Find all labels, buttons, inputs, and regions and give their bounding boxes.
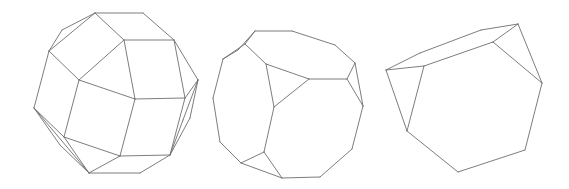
edge-line: [49, 30, 62, 51]
edge-line: [49, 13, 95, 51]
edge-line: [386, 70, 407, 131]
edge-line: [34, 108, 89, 173]
edge-line: [64, 137, 89, 173]
edge-line: [170, 118, 190, 155]
edge-line: [407, 66, 424, 131]
edge-line: [264, 107, 274, 152]
edge-line: [79, 80, 135, 99]
edge-line: [424, 42, 493, 66]
edge-line: [213, 59, 223, 98]
polyhedra-diagram: [0, 0, 569, 189]
edge-line: [49, 51, 79, 80]
edge-line: [525, 83, 542, 150]
edge-line: [95, 13, 124, 40]
edge-line: [34, 108, 60, 145]
edge-line: [120, 99, 135, 156]
edge-line: [493, 24, 518, 42]
edge-line: [120, 155, 170, 156]
edge-line: [458, 150, 525, 172]
edge-line: [89, 156, 120, 173]
edge-line: [64, 80, 79, 137]
edge-line: [135, 98, 185, 99]
edge-line: [143, 13, 174, 40]
edge-line: [124, 40, 135, 99]
edge-line: [274, 79, 309, 107]
polyhedron-3: [386, 24, 542, 172]
edge-line: [266, 64, 309, 79]
edge-line: [292, 31, 335, 45]
edge-line: [62, 13, 95, 30]
edge-line: [213, 98, 220, 142]
edge-line: [170, 120, 183, 155]
edge-line: [79, 40, 124, 80]
edge-line: [481, 24, 518, 30]
edge-line: [386, 66, 424, 70]
edge-line: [518, 24, 542, 83]
edge-line: [60, 145, 89, 173]
edge-line: [493, 42, 542, 83]
edge-line: [352, 106, 363, 149]
edge-line: [320, 149, 352, 177]
edge-line: [220, 142, 241, 163]
polyhedron-2: [213, 31, 363, 178]
edge-line: [223, 44, 245, 59]
edge-line: [347, 63, 355, 79]
edge-line: [282, 177, 320, 178]
edge-line: [170, 98, 185, 155]
edge-line: [407, 131, 458, 172]
edge-line: [241, 152, 264, 163]
edge-line: [245, 44, 266, 64]
polyhedron-1: [34, 13, 198, 173]
edge-line: [386, 53, 420, 70]
edge-line: [264, 152, 282, 178]
edge-line: [335, 45, 355, 63]
edge-line: [241, 163, 282, 178]
edge-line: [266, 64, 274, 107]
edge-line: [140, 155, 170, 173]
edge-line: [34, 108, 64, 137]
edge-line: [34, 51, 49, 108]
